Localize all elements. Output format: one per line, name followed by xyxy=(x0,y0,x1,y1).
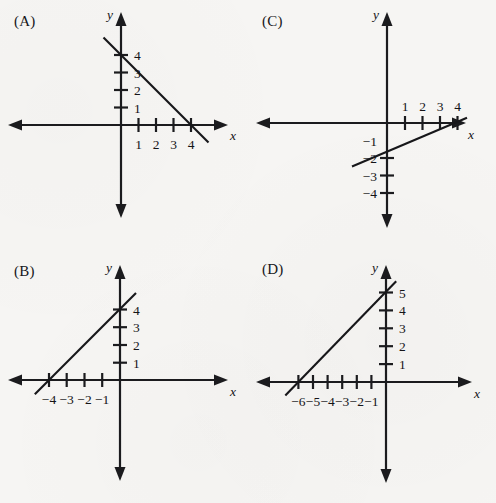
y-tick-label-3: 3 xyxy=(399,321,406,336)
x-axis-right-arrow-icon xyxy=(214,120,228,131)
y-axis-label: y xyxy=(371,7,379,22)
y-tick-label-1: 1 xyxy=(133,356,140,371)
y-axis-label: y xyxy=(104,260,112,275)
panel-b-graph: −4 −3 −2 −1 4 3 2 1 x y xyxy=(0,251,248,503)
panel-a: (A) 1 2 3 4 xyxy=(0,0,248,251)
x-tick-label-4: 4 xyxy=(454,99,461,114)
x-axis-right-arrow-icon xyxy=(458,377,472,388)
x-tick-label-neg2: −2 xyxy=(77,392,91,407)
y-tick-label-2: 2 xyxy=(399,339,406,354)
y-axis-label: y xyxy=(370,260,378,275)
y-axis-down-arrow-icon xyxy=(382,214,393,228)
x-axis-right-arrow-icon xyxy=(214,375,228,386)
panel-c-graph: 1 2 3 4 −1 −2 −3 −4 x y xyxy=(248,0,496,251)
y-tick-label-5: 5 xyxy=(399,286,406,301)
x-tick-label-neg2: −2 xyxy=(350,394,364,409)
x-tick-label-neg3: −3 xyxy=(60,392,75,407)
y-tick-label-neg3: −3 xyxy=(363,169,378,184)
y-tick-label-3: 3 xyxy=(134,66,141,81)
y-axis-up-arrow-icon xyxy=(116,12,127,26)
x-tick-label-neg5: −5 xyxy=(306,394,321,409)
panel-d-graph: −6 −5 −4 −3 −2 −1 5 4 3 2 1 x y xyxy=(248,251,496,503)
x-tick-label-4: 4 xyxy=(188,137,195,152)
x-tick-label-neg3: −3 xyxy=(335,394,350,409)
y-axis-label: y xyxy=(105,7,113,22)
x-tick-label-neg4: −4 xyxy=(320,394,335,409)
panel-a-graph: 1 2 3 4 4 3 2 1 x y xyxy=(0,0,248,251)
panel-d: (D) −6 −5 xyxy=(248,251,496,502)
y-tick-label-4: 4 xyxy=(133,303,140,318)
y-tick-label-4: 4 xyxy=(399,303,406,318)
x-tick-label-2: 2 xyxy=(153,137,160,152)
y-tick-label-2: 2 xyxy=(133,338,140,353)
figure-page: (A) 1 2 3 4 xyxy=(0,0,496,503)
panel-b: (B) −4 −3 −2 −1 xyxy=(0,251,248,502)
y-axis-down-arrow-icon xyxy=(116,204,127,218)
x-tick-label-2: 2 xyxy=(419,99,426,114)
x-tick-label-1: 1 xyxy=(135,137,142,152)
x-axis-label: x xyxy=(467,127,474,142)
x-tick-label-neg1: −1 xyxy=(95,392,109,407)
y-axis-down-arrow-icon xyxy=(381,469,392,483)
x-axis-left-arrow-icon xyxy=(8,120,22,131)
y-tick-label-4: 4 xyxy=(134,48,141,63)
x-axis-label: x xyxy=(473,386,480,401)
x-axis-label: x xyxy=(229,128,236,143)
y-axis-up-arrow-icon xyxy=(381,265,392,279)
x-tick-label-3: 3 xyxy=(437,99,444,114)
x-tick-label-3: 3 xyxy=(170,137,177,152)
y-tick-label-1: 1 xyxy=(399,357,406,372)
x-tick-label-neg4: −4 xyxy=(42,392,57,407)
plot-line-d xyxy=(285,281,396,395)
x-axis-label: x xyxy=(229,384,236,399)
panel-c: (C) 1 2 3 4 −1 xyxy=(248,0,496,251)
x-tick-label-neg6: −6 xyxy=(291,394,306,409)
y-tick-label-2: 2 xyxy=(134,83,141,98)
y-axis-down-arrow-icon xyxy=(115,467,126,481)
y-tick-label-3: 3 xyxy=(133,320,140,335)
y-tick-label-neg2: −2 xyxy=(363,151,377,166)
y-tick-label-neg1: −1 xyxy=(363,134,377,149)
x-tick-label-1: 1 xyxy=(402,99,409,114)
x-tick-label-neg1: −1 xyxy=(364,394,378,409)
y-axis-up-arrow-icon xyxy=(382,12,393,26)
y-tick-label-1: 1 xyxy=(134,101,141,116)
x-axis-left-arrow-icon xyxy=(256,377,270,388)
x-axis-left-arrow-icon xyxy=(8,375,22,386)
y-axis-up-arrow-icon xyxy=(115,265,126,279)
x-axis-left-arrow-icon xyxy=(256,118,270,129)
y-tick-label-neg4: −4 xyxy=(363,186,378,201)
